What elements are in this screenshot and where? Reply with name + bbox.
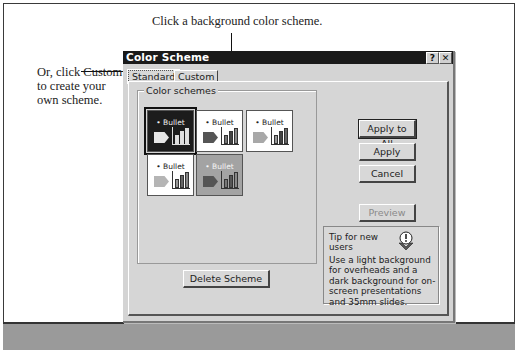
swatch-shape-icon: [154, 176, 169, 187]
standard-tab-panel: Color schemes • Bullet• Bullet• Bullet• …: [128, 81, 449, 316]
swatch-bar-chart-icon: [221, 127, 239, 145]
tip-box: Tip for new users Use a light background…: [323, 226, 439, 304]
color-schemes-label: Color schemes: [144, 85, 218, 96]
swatch-bar-chart-icon: [172, 127, 190, 145]
close-button[interactable]: ✕: [439, 52, 452, 64]
color-scheme-swatch[interactable]: • Bullet: [147, 110, 194, 152]
color-scheme-dialog: Color Scheme ? ✕ Standard Custom Color s…: [123, 51, 455, 323]
color-scheme-swatch[interactable]: • Bullet: [246, 110, 293, 152]
swatch-bullet-text: • Bullet: [247, 118, 292, 127]
dialog-title: Color Scheme: [126, 51, 209, 63]
lightbulb-tip-icon: [396, 230, 416, 252]
help-button[interactable]: ?: [426, 52, 439, 64]
swatch-bar-chart-icon: [221, 171, 239, 189]
swatch-bar-chart-icon: [172, 171, 190, 189]
swatch-shape-icon: [154, 132, 169, 143]
swatch-shape-icon: [253, 132, 268, 143]
caption-band: [3, 322, 515, 350]
swatch-bar-chart-icon: [271, 127, 289, 145]
cancel-button[interactable]: Cancel: [359, 165, 416, 183]
dialog-titlebar: Color Scheme ? ✕: [123, 51, 453, 64]
apply-button[interactable]: Apply: [359, 143, 416, 161]
color-scheme-swatch[interactable]: • Bullet: [147, 154, 194, 196]
apply-to-all-button[interactable]: Apply to All: [359, 120, 416, 138]
swatch-bullet-text: • Bullet: [148, 118, 193, 127]
swatch-bullet-text: • Bullet: [148, 162, 193, 171]
delete-scheme-button[interactable]: Delete Scheme: [183, 270, 270, 288]
color-schemes-group: Color schemes • Bullet• Bullet• Bullet• …: [137, 90, 317, 264]
preview-button[interactable]: Preview: [359, 204, 416, 222]
tip-body: Use a light background for overheads and…: [329, 255, 437, 307]
swatch-bullet-text: • Bullet: [197, 162, 242, 171]
tip-title: Tip for new users: [329, 232, 389, 253]
color-scheme-swatch[interactable]: • Bullet: [196, 154, 243, 196]
swatch-bullet-text: • Bullet: [197, 118, 242, 127]
swatch-shape-icon: [203, 132, 218, 143]
swatch-shape-icon: [203, 176, 218, 187]
color-scheme-swatch[interactable]: • Bullet: [196, 110, 243, 152]
callout-background-scheme: Click a background color scheme.: [152, 14, 322, 28]
